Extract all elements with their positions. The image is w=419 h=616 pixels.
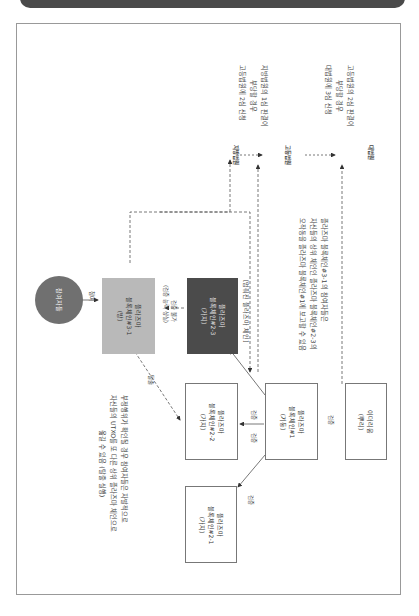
high-court-label: 고등법원: [283, 145, 292, 165]
plasma-chain-1-node: 플라즈마 블록체인#1 (기둥): [265, 383, 318, 460]
caption-line: 부당할 경우: [334, 65, 345, 127]
participate-edge-label: 참여: [87, 291, 96, 301]
ethereum-root-node: 이더리움 (뿌리): [345, 383, 387, 460]
verify-fail-edge-label: 검증 불가: [169, 300, 178, 322]
plasma-chain-3-1-node: 플라즈마 블록체인#3-1 (방): [102, 278, 155, 354]
district-appeal-caption: 지방법원의 1심 판결이 부당할 경우 고등법원에 2심 신청: [237, 65, 270, 127]
ethereum-line1: 이더리움: [366, 410, 375, 434]
plasma-chain-2-3-node: 플라즈마 블록체인#2-3 (가지): [187, 278, 238, 354]
stalled-chain-caption: [멈춰진 플라즈마 체인]: [242, 280, 251, 343]
exit-edge-label: 탈출: [146, 375, 155, 385]
caption-line: 부정행위가 확인될 경우 참여자들은 자발적으로: [119, 395, 130, 532]
verify-edge-label-1: 검증: [249, 410, 258, 420]
chain-3-1-line3: (방): [115, 297, 124, 336]
chain-2-3-line3: (가지): [199, 297, 208, 336]
plasma-chain-2-1-node: 플라즈마 블록체인#2-1 (가지): [185, 486, 237, 563]
supreme-court-label: 대법원: [366, 145, 375, 160]
chain-2-2-line3: (가지): [198, 402, 207, 441]
participants-node: 참여자들: [35, 276, 83, 324]
chain-1-line1: 플라즈마: [296, 405, 305, 438]
exit-note-caption: 부정행위가 확인될 경우 참여자들은 자발적으로 자신들의 UTXO를 또 다른…: [97, 395, 130, 532]
chain-2-1-line3: (가지): [198, 505, 207, 544]
caption-line: 자신들의 UTXO를 또 다른 상위 플라즈마 체인으로: [108, 395, 119, 532]
caption-line: 오작동을 플라즈마 블록체인#1에 보고할 수 있음: [297, 218, 308, 351]
high-appeal-caption: 고등법원의 2심 판결이 부당할 경우 대법원에 3심 신청: [323, 65, 356, 127]
caption-line: 옮길 수 있음 (탈출 실행): [97, 395, 108, 532]
chain-2-3-line2: 블록체인#2-3: [208, 297, 217, 336]
plasma-chain-2-2-node: 플라즈마 블록체인#2-2 (가지): [185, 383, 238, 460]
chain-3-1-line2: 블록체인#3-1: [124, 297, 133, 336]
verify-edge-label-2: 검증: [249, 433, 258, 443]
caption-line: 대법원에 3심 신청: [323, 65, 334, 127]
chain-2-3-line1: 플라즈마: [217, 297, 226, 336]
verify-fail-sub-label: (검증 능력 상실): [161, 285, 170, 323]
caption-line: 고등법원의 2심 판결이: [345, 65, 356, 127]
edge-label-line: 검증 불가: [169, 300, 178, 322]
caption-line: 지방법원의 1심 판결이: [259, 65, 270, 127]
fraud-report-caption: 플라즈마 블록체인#3-1의 참여자들은 자신들의 상위 체인인 플라즈마 블록…: [297, 218, 330, 351]
chain-1-line3: (기둥): [278, 405, 287, 438]
caption-line: 플라즈마 블록체인#3-1의 참여자들은: [319, 218, 330, 351]
verify-edge-label-3: 검증: [326, 415, 335, 425]
chain-2-2-line1: 플라즈마: [216, 402, 225, 441]
ethereum-line2: (뿌리): [357, 410, 366, 434]
caption-line: 자신들의 상위 체인인 플라즈마 블록체인#2-3의: [308, 218, 319, 351]
chain-2-1-line2: 블록체인#2-1: [207, 505, 216, 544]
chain-3-1-line1: 플라즈마: [133, 297, 142, 336]
participants-label: 참여자들: [55, 288, 64, 312]
chain-2-2-line2: 블록체인#2-2: [207, 402, 216, 441]
verify-edge-label-4: 검증: [246, 495, 255, 505]
chain-1-line2: 블록체인#1: [287, 405, 296, 438]
caption-line: 고등법원에 2심 신청: [237, 65, 248, 127]
chain-2-1-line1: 플라즈마: [216, 505, 225, 544]
caption-line: 부당할 경우: [248, 65, 259, 127]
district-court-label: 지방법원: [231, 145, 240, 165]
